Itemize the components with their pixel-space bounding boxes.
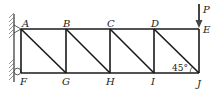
node-label-J: J	[197, 79, 201, 89]
node-label-D: D	[151, 19, 159, 29]
angle-label: 45°	[172, 64, 188, 73]
load-label-P: P	[203, 5, 210, 15]
node-label-C: C	[107, 19, 115, 29]
pin-support-A	[14, 25, 21, 33]
roller-support-F	[14, 68, 21, 75]
node-label-F: F	[20, 77, 27, 87]
load-arrow-P	[196, 4, 203, 28]
angle-arc	[190, 67, 193, 73]
node-label-A: A	[22, 19, 29, 29]
node-label-E: E	[203, 25, 210, 35]
wall-support	[9, 13, 14, 82]
truss-diagram: A B C D E P F G H I J 45°	[0, 0, 214, 95]
node-label-G: G	[62, 77, 70, 87]
node-label-I: I	[151, 77, 155, 87]
node-label-B: B	[63, 19, 70, 29]
node-label-H: H	[106, 77, 115, 87]
